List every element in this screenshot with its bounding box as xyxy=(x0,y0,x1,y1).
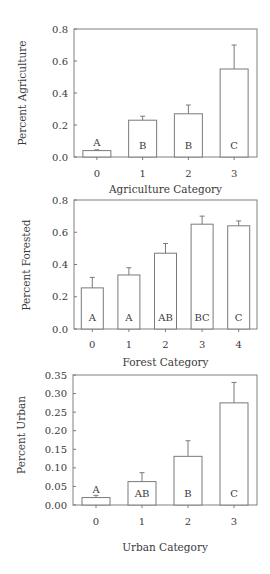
x-tick-label: 0 xyxy=(94,168,100,179)
bar-rect xyxy=(129,120,157,157)
x-axis-title: Forest Category xyxy=(123,356,209,368)
y-tick-label: 0.6 xyxy=(52,227,68,238)
x-tick-label: 0 xyxy=(93,516,99,527)
y-tick-label: 0.2 xyxy=(52,120,68,131)
chart-forest: 0.00.20.40.60.8A0A1AB2BC3C4Forest Catego… xyxy=(20,195,258,369)
y-axis-title: Percent Forested xyxy=(20,219,32,310)
significance-label: AB xyxy=(157,312,173,323)
chart-urban: 0.000.050.100.150.200.250.300.35A0AB1B2C… xyxy=(15,370,258,554)
x-tick-label: 2 xyxy=(185,516,191,527)
significance-label: B xyxy=(184,488,191,499)
y-tick-label: 0.0 xyxy=(52,324,68,335)
significance-label: A xyxy=(124,312,133,323)
y-axis-title: Percent Agriculture xyxy=(16,40,28,145)
x-axis-title: Agriculture Category xyxy=(108,183,222,195)
bar-rect xyxy=(83,151,111,157)
bar-2: B2 xyxy=(174,441,202,527)
bar-1: B1 xyxy=(129,116,157,179)
y-tick-label: 0.4 xyxy=(52,259,68,270)
y-tick-label: 0.15 xyxy=(45,444,67,455)
significance-label: C xyxy=(230,140,238,151)
figure: 0.00.20.40.60.8A0B1B2C3Agriculture Categ… xyxy=(0,0,270,574)
bar-4: C4 xyxy=(228,221,250,350)
significance-label: B xyxy=(139,140,146,151)
significance-label: C xyxy=(230,488,238,499)
bar-3: C3 xyxy=(220,382,248,527)
x-tick-label: 3 xyxy=(231,516,237,527)
x-axis-title: Urban Category xyxy=(122,541,208,553)
y-tick-label: 0.8 xyxy=(52,195,68,206)
bar-1: AB1 xyxy=(128,473,156,527)
significance-label: BC xyxy=(195,312,211,323)
y-tick-label: 0.8 xyxy=(52,24,68,35)
y-tick-label: 0.6 xyxy=(52,56,68,67)
x-tick-label: 1 xyxy=(139,168,145,179)
bar-1: A1 xyxy=(118,268,140,350)
significance-label: A xyxy=(88,312,97,323)
x-tick-label: 3 xyxy=(231,168,237,179)
bar-0: A0 xyxy=(83,137,111,179)
bar-3: C3 xyxy=(220,45,248,179)
x-tick-label: 0 xyxy=(89,339,95,350)
significance-label: A xyxy=(92,137,101,148)
y-tick-label: 0.2 xyxy=(52,291,68,302)
significance-label: AB xyxy=(134,488,150,499)
bar-0: A0 xyxy=(82,484,110,527)
y-tick-label: 0.05 xyxy=(45,481,67,492)
y-tick-label: 0.25 xyxy=(45,407,67,418)
bar-2: AB2 xyxy=(155,244,177,350)
x-tick-label: 3 xyxy=(199,339,205,350)
bar-rect xyxy=(82,498,110,505)
y-tick-label: 0.30 xyxy=(45,388,67,399)
significance-label: B xyxy=(185,140,192,151)
x-tick-label: 1 xyxy=(139,516,145,527)
x-tick-label: 1 xyxy=(126,339,132,350)
y-tick-label: 0.10 xyxy=(45,462,67,473)
x-tick-label: 4 xyxy=(236,339,242,350)
bar-3: BC3 xyxy=(191,216,213,350)
y-tick-label: 0.20 xyxy=(45,425,67,436)
x-tick-label: 2 xyxy=(162,339,168,350)
chart-agriculture: 0.00.20.40.60.8A0B1B2C3Agriculture Categ… xyxy=(16,24,258,196)
significance-label: C xyxy=(235,312,243,323)
x-tick-label: 2 xyxy=(185,168,191,179)
bar-0: A0 xyxy=(81,277,103,350)
y-tick-label: 0.4 xyxy=(52,88,68,99)
y-tick-label: 0.35 xyxy=(45,370,67,381)
significance-label: A xyxy=(91,484,100,495)
y-tick-label: 0.00 xyxy=(45,500,67,511)
bar-2: B2 xyxy=(174,105,202,179)
y-tick-label: 0.0 xyxy=(52,152,68,163)
y-axis-title: Percent Urban xyxy=(15,396,27,474)
